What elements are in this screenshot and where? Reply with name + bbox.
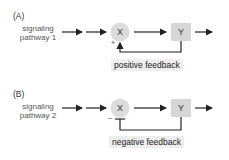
node-y-text: Y xyxy=(178,27,184,37)
node-x-text: X xyxy=(117,27,123,37)
node-x-text: X xyxy=(117,103,123,113)
feedback-diagram: X Y X Y xyxy=(0,0,229,160)
node-y-text: Y xyxy=(178,103,184,113)
feedback-inhibit-line xyxy=(120,117,181,130)
feedback-arrow-icon xyxy=(120,41,181,52)
